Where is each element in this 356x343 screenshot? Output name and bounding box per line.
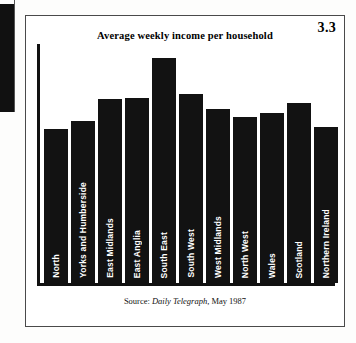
bar[interactable]: £203East Midlands: [98, 99, 122, 283]
bar-category-label: South East: [159, 232, 169, 278]
bar-group: £172Northern Ireland: [314, 44, 338, 283]
bar-group: £204East Anglia: [125, 44, 149, 283]
bar-category-label: North West: [240, 231, 250, 278]
bleed-highlight: [0, 0, 14, 4]
x-axis-baseline: [37, 283, 335, 286]
figure-frame: 3.3 Average weekly income per household …: [25, 15, 345, 327]
bar-category-label: West Midlands: [213, 216, 223, 278]
source-prefix: Source:: [124, 296, 150, 306]
bar-group: £187Wales: [260, 44, 284, 283]
bar-category-label: Scotland: [294, 241, 304, 279]
bar[interactable]: £183North West: [233, 117, 257, 283]
bar[interactable]: £204East Anglia: [125, 98, 149, 283]
chart-title: Average weekly income per household: [26, 30, 344, 41]
bar[interactable]: £248South East: [152, 58, 176, 283]
plot-area: £170North£179Yorks and Humberside£203Eas…: [37, 44, 335, 286]
bar[interactable]: £208South West: [179, 94, 203, 283]
bar-series: £170North£179Yorks and Humberside£203Eas…: [44, 44, 335, 283]
bar-category-label: Yorks and Humberside: [78, 182, 88, 278]
bar-category-label: South West: [186, 229, 196, 278]
bar-group: £198Scotland: [287, 44, 311, 283]
bar-group: £248South East: [152, 44, 176, 283]
source-publication: Daily Telegraph: [152, 296, 207, 306]
y-axis-line: [37, 44, 40, 284]
bar-group: £203East Midlands: [98, 44, 122, 283]
bar-category-label: North: [51, 254, 61, 278]
bar-group: £179Yorks and Humberside: [71, 44, 95, 283]
bar[interactable]: £179Yorks and Humberside: [71, 121, 95, 283]
bar[interactable]: £192West Midlands: [206, 109, 230, 283]
source-note: Source: Daily Telegraph, May 1987: [26, 296, 344, 306]
bar[interactable]: £170North: [44, 129, 68, 283]
bar-group: £192West Midlands: [206, 44, 230, 283]
figure-canvas: 3.3 Average weekly income per household …: [0, 0, 356, 343]
bar-category-label: Wales: [267, 253, 277, 278]
bar-category-label: Northern Ireland: [321, 209, 331, 278]
bar-category-label: East Midlands: [105, 218, 115, 278]
bar-group: £183North West: [233, 44, 257, 283]
bar-group: £170North: [44, 44, 68, 283]
bar-group: £208South West: [179, 44, 203, 283]
adjacent-figure-bleed: [0, 0, 15, 112]
bar[interactable]: £172Northern Ireland: [314, 127, 338, 283]
bar-category-label: East Anglia: [132, 230, 142, 278]
bar[interactable]: £198Scotland: [287, 103, 311, 283]
bar[interactable]: £187Wales: [260, 113, 284, 283]
source-date: , May 1987: [207, 296, 246, 306]
